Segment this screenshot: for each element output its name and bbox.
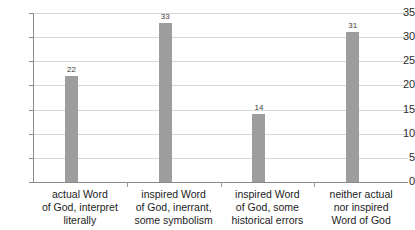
category-separator-tick <box>314 182 315 187</box>
category-label-line: neither actual <box>314 188 408 201</box>
category-label-line: of God, some <box>221 201 315 214</box>
y-axis-tick-label: 35 <box>389 6 415 18</box>
category-label-line: of God, interpret <box>33 201 127 214</box>
bar-chart: 05101520253035 22331431 actual Wordof Go… <box>0 0 415 230</box>
y-axis-tick-label: 0 <box>389 175 415 187</box>
bar-value-label: 33 <box>150 12 180 21</box>
y-axis-tick-label: 20 <box>389 78 415 90</box>
category-separator-tick <box>221 182 222 187</box>
category-label-line: some symbolism <box>127 214 221 227</box>
category-label: inspired Wordof God, somehistorical erro… <box>221 188 315 227</box>
y-axis-tick-label: 5 <box>389 151 415 163</box>
category-label: neither actualnor inspiredWord of God <box>314 188 408 227</box>
bar <box>252 114 265 182</box>
y-axis-tick-label: 30 <box>389 30 415 42</box>
bar-value-label: 31 <box>338 21 368 30</box>
category-label-line: of God, inerrant, <box>127 201 221 214</box>
bar <box>65 76 78 182</box>
bar <box>346 32 359 182</box>
y-axis-tick-label: 25 <box>389 54 415 66</box>
bar-value-label: 14 <box>244 103 274 112</box>
category-label-line: literally <box>33 214 127 227</box>
category-label-line: inspired Word <box>127 188 221 201</box>
category-separator-tick <box>127 182 128 187</box>
bar <box>159 23 172 182</box>
category-label-line: Word of God <box>314 214 408 227</box>
bar-value-label: 22 <box>56 65 86 74</box>
category-label-line: nor inspired <box>314 201 408 214</box>
y-axis-tick-label: 10 <box>389 127 415 139</box>
gridline <box>33 13 408 14</box>
y-axis-tick-label: 15 <box>389 103 415 115</box>
category-label-line: actual Word <box>33 188 127 201</box>
category-label-line: inspired Word <box>221 188 315 201</box>
category-label-line: historical errors <box>221 214 315 227</box>
y-axis-line <box>33 13 34 183</box>
category-label: inspired Wordof God, inerrant,some symbo… <box>127 188 221 227</box>
category-label: actual Wordof God, interpretliterally <box>33 188 127 227</box>
